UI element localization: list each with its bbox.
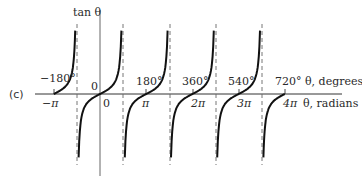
rad-label-0: 0 [103, 97, 110, 110]
deg-label-180: 180° [136, 75, 163, 88]
deg-label-540: 540° [228, 75, 255, 88]
rad-label-2pi: 2π [190, 97, 206, 110]
rad-label-4pi: 4π [282, 97, 298, 110]
deg-axis-title: θ, degrees [305, 75, 362, 88]
rad-axis-title: θ, radians [303, 97, 359, 110]
y-axis-label: tan θ [73, 6, 102, 19]
deg-label-0: 0 [91, 80, 98, 93]
rad-label-mpi: −π [42, 97, 59, 110]
deg-label-360: 360° [182, 75, 209, 88]
tan-graph: (c) tan θ −180° 0 180° 360° 540° 720° θ,… [0, 0, 362, 179]
rad-label-pi: π [141, 97, 150, 110]
deg-label-m180: −180° [40, 72, 76, 85]
panel-label: (c) [9, 88, 24, 101]
tick-marks [54, 89, 285, 94]
rad-label-3pi: 3π [237, 97, 252, 110]
deg-label-720: 720° [275, 75, 302, 88]
